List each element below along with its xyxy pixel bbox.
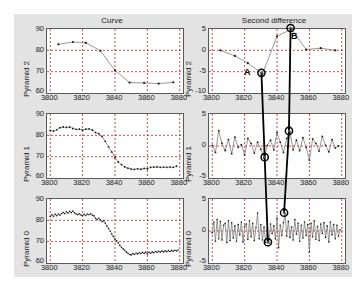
figure-caption: [0, 282, 362, 296]
ytick-curve-p2-80: 80: [26, 45, 44, 54]
xtick-second-difference-pyramid-1-3820: 3820: [232, 178, 256, 187]
ytick-curve-p0-70: 70: [26, 236, 44, 245]
xtick-second-difference-pyramid-0-3800: 3800: [199, 263, 223, 272]
xtick-curve-pyramid-2-3820: 3820: [70, 93, 94, 102]
panel-curve-pyramid-2: [46, 28, 184, 94]
ytick-curve-p1-70: 70: [26, 151, 44, 160]
xtick-curve-pyramid-1-3880: 3880: [167, 178, 191, 187]
plot-curve-pyramid-2: [47, 29, 183, 93]
xtick-second-difference-pyramid-1-3800: 3800: [199, 178, 223, 187]
xtick-curve-pyramid-2-3880: 3880: [167, 93, 191, 102]
ytick-curve-p1-80: 80: [26, 130, 44, 139]
xtick-curve-pyramid-0-3880: 3880: [167, 263, 191, 272]
plot-second-difference-pyramid-0: [209, 199, 345, 263]
xtick-second-difference-pyramid-0-3880: 3880: [329, 263, 353, 272]
xtick-second-difference-pyramid-0-3820: 3820: [232, 263, 256, 272]
ytick-diff-p0-0: 0: [188, 225, 206, 234]
xtick-second-difference-pyramid-2-3840: 3840: [264, 93, 288, 102]
xtick-second-difference-pyramid-1-3840: 3840: [264, 178, 288, 187]
xtick-curve-pyramid-2-3800: 3800: [37, 93, 61, 102]
ytick-diff-p2-5: 5: [188, 24, 206, 33]
ytick-diff-p2-0: 0: [188, 45, 206, 54]
ytick-curve-p2-70: 70: [26, 66, 44, 75]
xtick-curve-pyramid-0-3820: 3820: [70, 263, 94, 272]
xtick-second-difference-pyramid-1-3880: 3880: [329, 178, 353, 187]
xtick-second-difference-pyramid-0-3840: 3840: [264, 263, 288, 272]
ytick-curve-p0-90: 90: [26, 194, 44, 203]
xtick-second-difference-pyramid-2-3820: 3820: [232, 93, 256, 102]
plot-curve-pyramid-1: [47, 114, 183, 178]
xtick-curve-pyramid-0-3800: 3800: [37, 263, 61, 272]
ytick-diff-p1-0: 0: [188, 140, 206, 149]
ytick-diff-p2-m5: -5: [188, 66, 206, 75]
panel-second-difference-pyramid-1: [208, 113, 346, 179]
annotation-label-a: A: [244, 67, 251, 77]
column-title-curve: Curve: [42, 16, 182, 25]
xtick-curve-pyramid-1-3860: 3860: [134, 178, 158, 187]
xtick-curve-pyramid-1-3800: 3800: [37, 178, 61, 187]
xtick-second-difference-pyramid-2-3860: 3860: [296, 93, 320, 102]
annotation-label-b: B: [291, 31, 298, 41]
ytick-diff-p1-5: 5: [188, 109, 206, 118]
xtick-curve-pyramid-1-3820: 3820: [70, 178, 94, 187]
xtick-curve-pyramid-2-3840: 3840: [102, 93, 126, 102]
xtick-curve-pyramid-0-3860: 3860: [134, 263, 158, 272]
xtick-second-difference-pyramid-0-3860: 3860: [296, 263, 320, 272]
figure-panel: Curve Second difference Pyramid 2 90 80 …: [14, 14, 352, 277]
panel-second-difference-pyramid-0: [208, 198, 346, 264]
xtick-curve-pyramid-0-3840: 3840: [102, 263, 126, 272]
panel-curve-pyramid-1: [46, 113, 184, 179]
ytick-curve-p0-80: 80: [26, 215, 44, 224]
panel-second-difference-pyramid-2: [208, 28, 346, 94]
panel-curve-pyramid-0: [46, 198, 184, 264]
ytick-diff-p0-5: 5: [188, 194, 206, 203]
xtick-second-difference-pyramid-2-3880: 3880: [329, 93, 353, 102]
plot-curve-pyramid-0: [47, 199, 183, 263]
plot-second-difference-pyramid-2: [209, 29, 345, 93]
ytick-curve-p1-90: 90: [26, 109, 44, 118]
xtick-second-difference-pyramid-2-3800: 3800: [199, 93, 223, 102]
xtick-second-difference-pyramid-1-3860: 3860: [296, 178, 320, 187]
plot-second-difference-pyramid-1: [209, 114, 345, 178]
xtick-curve-pyramid-2-3860: 3860: [134, 93, 158, 102]
column-title-second-difference: Second difference: [204, 16, 344, 25]
xtick-curve-pyramid-1-3840: 3840: [102, 178, 126, 187]
ytick-curve-p2-90: 90: [26, 24, 44, 33]
